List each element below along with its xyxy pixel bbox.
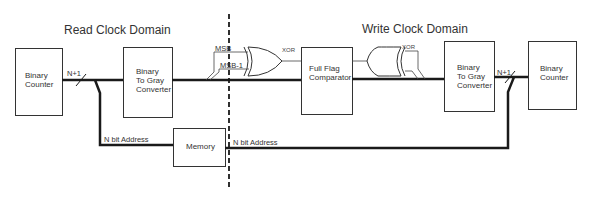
address-left-label: N bit Address [104, 135, 149, 144]
msb1-label: MSB-1 [220, 61, 243, 70]
read-bus-width-label: N+1 [67, 69, 81, 78]
address-right-label: N bit Address [233, 138, 278, 147]
xor-right-label: XOR [402, 44, 415, 50]
full-flag-comparator-label: Full Flag Comparator [309, 64, 351, 82]
memory-label: Memory [186, 142, 215, 151]
xor-gate-left [244, 47, 282, 76]
write-binary-counter-label: Binary Counter [540, 64, 568, 82]
read-b2g-label: Binary To Gray Converter [136, 67, 171, 94]
xor-gate-right [367, 47, 405, 76]
read-binary-counter-label: Binary Counter [25, 71, 53, 89]
write-b2g-label: Binary To Gray Converter [457, 63, 492, 90]
write-clock-domain-title: Write Clock Domain [362, 22, 468, 36]
msb-label: MSB [215, 44, 231, 53]
read-clock-domain-title: Read Clock Domain [64, 23, 171, 37]
xor-left-label: XOR [282, 47, 295, 53]
write-bus-width-label: N+1 [497, 68, 511, 77]
